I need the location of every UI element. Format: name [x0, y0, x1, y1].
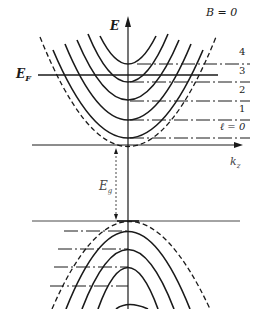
kz-label-sub: z	[237, 162, 241, 170]
energy-axis-arrow-icon	[125, 16, 131, 27]
fermi-level-label-main: E	[16, 67, 25, 81]
band-gap-label: Eg	[99, 180, 112, 195]
fermi-level-label: EF	[16, 68, 31, 82]
diagram-canvas	[0, 0, 261, 309]
kz-axis-label: kz	[230, 156, 240, 170]
fermi-level-label-sub: F	[25, 73, 31, 83]
gap-arrow-up-icon	[114, 148, 118, 154]
zero-field-label: B = 0	[206, 7, 237, 18]
valence-b0-curve	[52, 222, 210, 309]
gap-label-main: E	[99, 179, 108, 193]
valence-level-lines	[50, 231, 128, 286]
level-label-4: 4	[239, 47, 245, 57]
level-label-0: ℓ = 0	[220, 122, 245, 132]
energy-axis-label: E	[110, 20, 119, 32]
level-label-3: 3	[239, 66, 245, 76]
band-diagram: E EF B = 0 4 3 2 1 ℓ = 0 kz Eg	[0, 0, 261, 309]
level-label-1: 1	[239, 104, 245, 114]
kz-axis-arrow-icon	[234, 142, 243, 148]
level-label-2: 2	[239, 85, 245, 95]
kz-label-main: k	[230, 155, 237, 168]
gap-arrow-down-icon	[114, 214, 118, 220]
gap-label-sub: g	[108, 187, 112, 195]
